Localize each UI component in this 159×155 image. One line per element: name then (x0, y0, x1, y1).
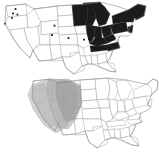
state-nebraska (58, 26, 77, 35)
state-tennessee-b (106, 120, 126, 127)
state-nebraska-b (81, 100, 100, 109)
state-michigan-b (116, 80, 132, 100)
state-south-carolina (106, 50, 113, 62)
state-south-carolina-b (129, 124, 136, 136)
state-minnesota-b (95, 78, 110, 100)
state-kansas-b (82, 108, 101, 119)
top-map-panel (0, 0, 159, 78)
point-marker-pnw-1 (15, 8, 17, 10)
top-map-svg (0, 0, 159, 78)
state-north-dakota-b (80, 79, 96, 90)
point-marker-pnw-2 (12, 13, 14, 15)
point-marker-pnw-3 (17, 14, 19, 16)
map-figure (0, 0, 159, 155)
state-pennsylvania-highlighted (110, 22, 128, 34)
bottom-map-svg (0, 75, 159, 155)
point-marker-plains-3 (68, 37, 70, 39)
state-indiana-highlighted (94, 26, 102, 38)
state-kansas (59, 34, 78, 45)
state-indiana-b (117, 100, 125, 112)
point-marker-plains-5 (88, 38, 90, 40)
point-marker-plains-2 (51, 34, 53, 36)
point-marker-plains-4 (83, 39, 85, 41)
state-south-dakota (58, 15, 74, 27)
state-wyoming (41, 20, 59, 35)
state-north-dakota (57, 5, 73, 16)
bottom-map-panel (0, 75, 159, 155)
point-marker-plains-1 (54, 25, 56, 27)
state-tennessee-highlighted (90, 45, 108, 52)
state-south-dakota-b (81, 89, 97, 101)
point-marker-pnw-4 (11, 17, 13, 19)
state-arizona (33, 45, 52, 61)
